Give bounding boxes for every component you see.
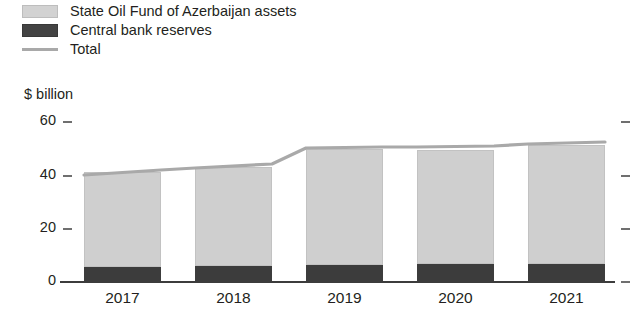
bar-2021 [528, 145, 605, 281]
bar-segment-central-bank-2021 [528, 264, 605, 281]
bar-segment-central-bank-2018 [195, 266, 272, 281]
y-tick-mark-40 [63, 175, 72, 177]
plot-area: 60 40 20 0 [0, 0, 639, 321]
y-tick-mark-60 [63, 121, 72, 123]
bar-segment-central-bank-2020 [417, 264, 494, 281]
bar-segment-oil-fund-2017 [84, 172, 161, 267]
bar-segment-central-bank-2017 [84, 267, 161, 281]
y-tick-mark-right-40 [621, 175, 630, 177]
y-tick-mark-20 [63, 228, 72, 230]
bar-segment-central-bank-2019 [306, 265, 383, 281]
bar-2020 [417, 150, 494, 281]
bar-2017 [84, 172, 161, 281]
bar-2019 [306, 149, 383, 281]
bar-segment-oil-fund-2018 [195, 167, 272, 266]
y-tick-label-0: 0 [16, 272, 56, 288]
chart-container: State Oil Fund of Azerbaijan assets Cent… [0, 0, 639, 321]
x-axis-baseline [60, 281, 615, 283]
bar-2018 [195, 167, 272, 281]
y-tick-label-60: 60 [16, 112, 56, 128]
x-tick-label-2020: 2020 [417, 289, 494, 307]
y-tick-mark-right-0 [621, 281, 630, 283]
bar-segment-oil-fund-2019 [306, 149, 383, 265]
bar-segment-oil-fund-2021 [528, 145, 605, 264]
x-tick-label-2018: 2018 [195, 289, 272, 307]
y-tick-label-20: 20 [16, 219, 56, 235]
x-tick-label-2021: 2021 [528, 289, 605, 307]
y-tick-mark-right-60 [621, 121, 630, 123]
bar-segment-oil-fund-2020 [417, 150, 494, 264]
y-tick-mark-right-20 [621, 228, 630, 230]
y-tick-label-40: 40 [16, 166, 56, 182]
x-tick-label-2019: 2019 [306, 289, 383, 307]
x-tick-label-2017: 2017 [84, 289, 161, 307]
